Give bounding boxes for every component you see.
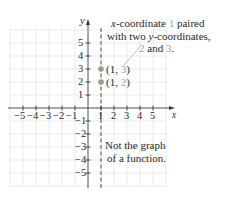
x-tick-label: 3: [124, 110, 129, 122]
x-tick-label: −3: [40, 110, 51, 122]
x-tick-label: 2: [111, 110, 116, 122]
y-tick-label: 4: [78, 50, 83, 62]
y-tick-label: 3: [78, 63, 83, 75]
point-label-1-2: (1, 2): [106, 76, 130, 89]
annotation-top-line2: with two y-coordinates,: [107, 30, 211, 43]
annotation-bottom: Not the graph of a function.: [105, 139, 166, 164]
y-tick-label: −5: [75, 167, 86, 179]
x-tick-label: 5: [150, 110, 155, 122]
y-tick-label: −3: [75, 141, 86, 153]
y-tick-label: 1: [78, 89, 83, 101]
point-label-1-3: (1, 3): [106, 63, 130, 76]
point-1-2: [98, 79, 104, 85]
y-axis-arrow: [86, 19, 90, 25]
y-axis-label: y: [80, 15, 85, 27]
x-tick-label: 1: [98, 110, 103, 122]
y-tick-label: −2: [75, 128, 86, 140]
x-tick-label: 4: [137, 110, 142, 122]
x-tick-label: −2: [53, 110, 64, 122]
x-tick-label: −5: [14, 110, 25, 122]
y-tick-label: −1: [75, 115, 86, 127]
point-1-3: [98, 66, 104, 72]
annotation-top: x-coordinate 1 paired with two y-coordin…: [111, 17, 211, 55]
annotation-top-line1: x-coordinate 1 paired: [111, 17, 211, 30]
annotation-top-line3: 2 and 3.: [139, 42, 211, 55]
y-tick-label: −4: [75, 154, 86, 166]
y-axis: [86, 22, 91, 188]
y-tick-label: 2: [78, 76, 83, 88]
x-tick-label: −4: [27, 110, 38, 122]
x-axis-label: x: [172, 109, 176, 121]
y-tick-label: 5: [78, 37, 83, 49]
